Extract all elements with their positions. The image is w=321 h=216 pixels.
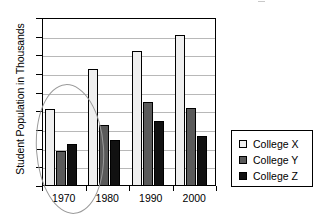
legend-swatch-college-x	[239, 140, 247, 148]
bar-college-z-1990[interactable]	[154, 121, 164, 186]
bar-groups	[42, 18, 216, 186]
legend-item-college-y[interactable]: College Y	[239, 152, 312, 168]
bar-college-x-1970[interactable]	[45, 109, 55, 186]
bar-college-y-1990[interactable]	[143, 102, 153, 186]
x-tick-mark-1980	[86, 186, 87, 191]
legend-label-college-x: College X	[253, 139, 299, 150]
x-tick-label-1970: 1970	[41, 192, 87, 204]
bar-college-z-1970[interactable]	[67, 144, 77, 186]
x-tick-mark-1970	[42, 186, 43, 191]
bar-college-x-1980[interactable]	[88, 69, 98, 186]
legend: College X College Y College Z	[231, 130, 313, 187]
bar-group-1970	[42, 18, 86, 186]
bar-chart: Student Population in Thousands 45403530…	[0, 0, 321, 216]
bar-college-z-2000[interactable]	[197, 136, 207, 186]
bar-college-x-1990[interactable]	[132, 51, 142, 186]
legend-swatch-college-y	[239, 156, 247, 164]
x-tick-label-1990: 1990	[128, 192, 174, 204]
legend-item-college-z[interactable]: College Z	[239, 168, 312, 184]
bar-group-1980	[86, 18, 130, 186]
x-tick-mark-end	[216, 186, 217, 191]
x-tick-label-1980: 1980	[84, 192, 130, 204]
legend-swatch-college-z	[239, 172, 247, 180]
legend-item-college-x[interactable]: College X	[239, 136, 312, 152]
legend-label-college-y: College Y	[253, 155, 298, 166]
bar-college-z-1980[interactable]	[110, 140, 120, 186]
bar-group-1990	[129, 18, 173, 186]
bar-college-y-1980[interactable]	[99, 125, 109, 186]
x-tick-mark-2000	[173, 186, 174, 191]
legend-label-college-z: College Z	[253, 171, 298, 182]
bar-group-2000	[173, 18, 217, 186]
top-stray-mark	[258, 1, 265, 2]
x-tick-label-2000: 2000	[171, 192, 217, 204]
x-tick-mark-1990	[129, 186, 130, 191]
bar-college-y-1970[interactable]	[56, 151, 66, 186]
y-axis-title: Student Population in Thousands	[14, 11, 26, 187]
bar-college-x-2000[interactable]	[175, 35, 185, 186]
bar-college-y-2000[interactable]	[186, 108, 196, 186]
